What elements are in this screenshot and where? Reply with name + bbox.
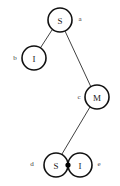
node-n5-i[interactable]: I: [68, 153, 92, 177]
junction-dot: [65, 162, 70, 167]
side-label-e: e: [97, 160, 100, 168]
side-label-b: b: [13, 54, 17, 62]
side-label-a: a: [78, 15, 82, 23]
node-n1-s[interactable]: S: [48, 8, 72, 32]
edges-layer: [41, 30, 91, 154]
node-n4-s[interactable]: S: [44, 153, 68, 177]
edge-n1-to-n3: [65, 31, 91, 87]
nodes-layer: SIMSI: [22, 8, 109, 177]
side-label-c: c: [77, 93, 80, 101]
side-label-d: d: [30, 160, 34, 168]
edge-n1-to-n2: [41, 30, 52, 47]
node-label: M: [93, 93, 101, 103]
edge-n3-to-n4: [62, 107, 90, 154]
node-label: S: [57, 16, 62, 26]
node-n3-m[interactable]: M: [85, 85, 109, 109]
node-label: I: [33, 54, 36, 64]
graph-svg: SIMSI abcde: [0, 0, 120, 186]
node-label: S: [53, 161, 58, 171]
node-label: I: [79, 161, 82, 171]
node-n2-i[interactable]: I: [22, 46, 46, 70]
tree-diagram-canvas: SIMSI abcde: [0, 0, 120, 186]
